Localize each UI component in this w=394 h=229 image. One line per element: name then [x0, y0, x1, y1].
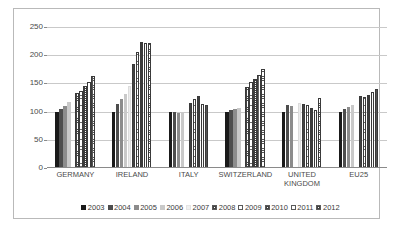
- bar[interactable]: [343, 109, 346, 168]
- bar-group: [104, 27, 161, 168]
- bar[interactable]: [249, 82, 252, 168]
- bar[interactable]: [169, 112, 172, 168]
- legend-item[interactable]: 2010: [265, 203, 288, 212]
- bar[interactable]: [55, 112, 58, 168]
- x-axis-label: IRELAND: [104, 170, 161, 188]
- bar[interactable]: [257, 75, 260, 168]
- bar[interactable]: [124, 94, 127, 168]
- bar-group-bars: [339, 27, 379, 168]
- bar[interactable]: [371, 92, 374, 168]
- bar[interactable]: [140, 42, 143, 168]
- legend-item[interactable]: 2009: [238, 203, 261, 212]
- bar[interactable]: [189, 103, 192, 168]
- legend-item[interactable]: 2003: [81, 203, 104, 212]
- bar[interactable]: [286, 105, 289, 168]
- bar[interactable]: [116, 104, 119, 168]
- y-axis-tick-label: 200: [30, 51, 43, 59]
- legend-label: 2009: [245, 203, 262, 212]
- bar[interactable]: [91, 76, 94, 168]
- chart-screenshot: 050100150200250 GERMANYIRELANDITALYSWITZ…: [0, 0, 394, 229]
- bar[interactable]: [193, 99, 196, 168]
- legend-item[interactable]: 2005: [134, 203, 157, 212]
- bar[interactable]: [290, 106, 293, 168]
- bar[interactable]: [261, 69, 264, 168]
- plot-area: 050100150200250: [47, 27, 387, 168]
- bar[interactable]: [197, 96, 200, 168]
- bar[interactable]: [318, 98, 321, 169]
- legend-label: 2006: [166, 203, 183, 212]
- x-axis-label: ITALY: [160, 170, 217, 188]
- x-axis-label: GERMANY: [47, 170, 104, 188]
- bar[interactable]: [177, 113, 180, 168]
- legend-swatch-icon: [291, 205, 296, 210]
- bar[interactable]: [132, 64, 135, 168]
- bar[interactable]: [148, 43, 151, 168]
- bar[interactable]: [347, 107, 350, 168]
- bar[interactable]: [205, 105, 208, 168]
- y-axis-tick-label: 50: [34, 136, 43, 144]
- bar[interactable]: [233, 109, 236, 168]
- bar[interactable]: [363, 97, 366, 168]
- bar[interactable]: [298, 103, 301, 168]
- legend-item[interactable]: 2008: [212, 203, 235, 212]
- bar-groups: [47, 27, 387, 168]
- bar[interactable]: [282, 112, 285, 168]
- bar[interactable]: [375, 89, 378, 168]
- bar[interactable]: [229, 110, 232, 168]
- bar[interactable]: [225, 112, 228, 168]
- bar[interactable]: [367, 95, 370, 168]
- bar-group: [330, 27, 387, 168]
- chart-frame: 050100150200250 GERMANYIRELANDITALYSWITZ…: [13, 8, 380, 219]
- legend-item[interactable]: 2006: [160, 203, 183, 212]
- bar[interactable]: [136, 52, 139, 168]
- bar-group: [217, 27, 274, 168]
- bar[interactable]: [79, 91, 82, 168]
- bar[interactable]: [181, 112, 184, 168]
- legend-swatch-icon: [81, 205, 86, 210]
- legend-swatch-icon: [265, 205, 270, 210]
- bar[interactable]: [310, 108, 313, 168]
- legend-item[interactable]: 2011: [291, 203, 314, 212]
- bar[interactable]: [201, 104, 204, 168]
- legend-label: 2005: [140, 203, 157, 212]
- legend-label: 2010: [271, 203, 288, 212]
- bar[interactable]: [59, 109, 62, 168]
- legend-swatch-icon: [316, 205, 321, 210]
- legend-item[interactable]: 2012: [316, 203, 339, 212]
- bar[interactable]: [306, 105, 309, 168]
- bar[interactable]: [128, 86, 131, 168]
- bar-group-bars: [282, 27, 322, 168]
- bar[interactable]: [245, 87, 248, 168]
- x-axis-label: EU25: [330, 170, 387, 188]
- legend-label: 2008: [219, 203, 236, 212]
- bar[interactable]: [237, 108, 240, 168]
- bar[interactable]: [173, 112, 176, 168]
- bar[interactable]: [112, 112, 115, 168]
- legend-swatch-icon: [238, 205, 243, 210]
- y-axis-tick-label: 150: [30, 79, 43, 87]
- y-axis-tick-label: 250: [30, 23, 43, 31]
- bar[interactable]: [144, 43, 147, 168]
- x-axis-line: [47, 167, 387, 168]
- bar[interactable]: [67, 102, 70, 168]
- bar[interactable]: [351, 105, 354, 168]
- y-axis-tick-mark: [44, 168, 47, 169]
- bar-group-bars: [225, 27, 265, 168]
- bar-group-bars: [169, 27, 209, 168]
- x-axis-label: SWITZERLAND: [217, 170, 274, 188]
- bar[interactable]: [253, 79, 256, 168]
- bar[interactable]: [120, 99, 123, 168]
- bar[interactable]: [359, 96, 362, 168]
- legend-item[interactable]: 2007: [186, 203, 209, 212]
- bar[interactable]: [87, 82, 90, 168]
- bar[interactable]: [339, 112, 342, 168]
- legend-label: 2011: [297, 203, 313, 212]
- legend-label: 2003: [88, 203, 105, 212]
- x-axis-label: UNITED KINGDOM: [274, 170, 331, 188]
- bar[interactable]: [302, 104, 305, 168]
- bar[interactable]: [314, 110, 317, 168]
- legend-item[interactable]: 2004: [108, 203, 131, 212]
- bar[interactable]: [63, 106, 66, 168]
- bar[interactable]: [75, 93, 78, 168]
- bar[interactable]: [83, 86, 86, 168]
